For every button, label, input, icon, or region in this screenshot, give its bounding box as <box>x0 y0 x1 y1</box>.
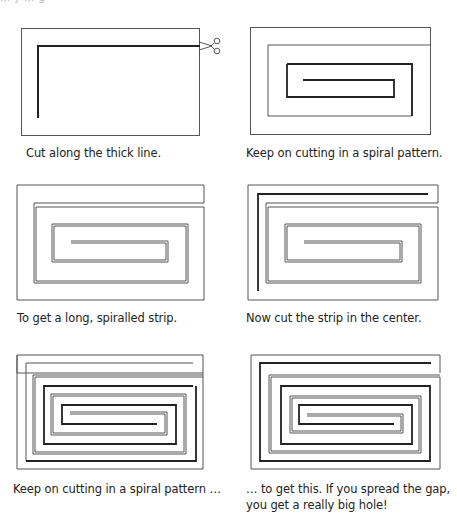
panel-5-figure <box>17 355 203 469</box>
panel-3-figure <box>17 185 204 300</box>
panel-6-caption-line1: … to get this. If you spread the gap, <box>246 482 450 497</box>
panel-5-caption: Keep on cutting in a spiral pattern … <box>13 482 221 497</box>
panel-1-caption: Cut along the thick line. <box>26 146 161 161</box>
spiral-cutting-diagram <box>0 0 457 531</box>
scissors-icon <box>199 38 220 54</box>
panel-4-caption: Now cut the strip in the center. <box>246 311 421 326</box>
panel-4-figure <box>248 185 438 300</box>
panel-2-figure <box>251 28 431 135</box>
panel-3-caption: To get a long, spiralled strip. <box>17 311 177 326</box>
panel-1-figure <box>22 29 220 136</box>
panel-6-figure <box>251 355 440 469</box>
panel-2-caption: Keep on cutting in a spiral pattern. <box>246 146 442 161</box>
panel-6-caption-line2: you get a really big hole! <box>246 498 388 513</box>
